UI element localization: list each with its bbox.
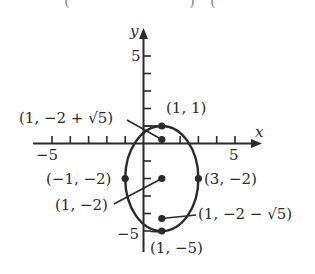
y-tick-label-neg5: −5	[117, 225, 139, 243]
top-fragment-3: (	[210, 0, 216, 10]
point-top-vertex	[158, 122, 165, 129]
ellipse-figure: ( ) ( x −5 5	[0, 0, 315, 274]
point-focus-upper	[158, 136, 165, 143]
y-tick-label-5: 5	[131, 47, 141, 65]
ellipse-plot: ( ) ( x −5 5	[0, 0, 315, 274]
x-tick-label-neg5: −5	[36, 146, 58, 164]
x-axis-name: x	[255, 123, 264, 141]
y-axis-name: y	[129, 22, 139, 40]
leader-center	[114, 179, 162, 205]
label-left-vertex: (−1, −2)	[46, 170, 111, 188]
top-fragment-1: (	[64, 0, 70, 10]
point-left-vertex	[122, 175, 129, 182]
label-bottom-vertex: (1, −5)	[150, 239, 203, 257]
top-fragment-2: )	[189, 0, 195, 10]
x-tick-label-5: 5	[229, 146, 239, 164]
y-axis-arrow-icon	[139, 28, 148, 39]
label-center: (1, −2)	[55, 196, 108, 214]
label-top-vertex: (1, 1)	[166, 99, 206, 117]
point-focus-lower	[158, 215, 165, 222]
label-right-vertex: (3, −2)	[204, 170, 257, 188]
point-center	[158, 175, 165, 182]
label-focus-lower: (1, −2 − √5)	[198, 205, 292, 223]
point-right-vertex	[195, 175, 202, 182]
label-focus-upper: (1, −2 + √5)	[19, 109, 113, 127]
plot-points	[122, 122, 202, 234]
leader-focus-lower	[162, 215, 196, 219]
point-bottom-vertex	[158, 227, 165, 234]
